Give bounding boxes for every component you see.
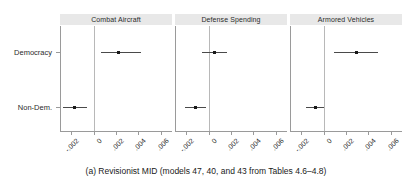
panel-header-2: Defense Spending xyxy=(175,14,287,25)
panel-header-1: Combat Aircraft xyxy=(60,14,172,25)
x-tick-mark xyxy=(71,132,72,135)
x-tick-mark xyxy=(161,132,162,135)
panel-header-label: Combat Aircraft xyxy=(60,14,172,25)
x-tick-mark xyxy=(301,132,302,135)
panel-y-axis-2 xyxy=(175,26,176,131)
zero-reference-line-1 xyxy=(94,26,95,131)
x-tick-mark xyxy=(253,132,254,135)
y-tick-mark xyxy=(56,52,60,53)
zero-reference-line-2 xyxy=(209,26,210,131)
x-tick-mark xyxy=(368,132,369,135)
zero-reference-line-3 xyxy=(324,26,325,131)
point-estimate xyxy=(213,51,216,54)
y-tick-label-non-dem-: Non-Dem. xyxy=(0,103,52,112)
x-tick-mark xyxy=(186,132,187,135)
point-estimate xyxy=(194,106,197,109)
x-tick-mark xyxy=(209,132,210,135)
x-tick-mark xyxy=(138,132,139,135)
coefficient-plot-figure: Combat Aircraft-.0020.002.004.006Defense… xyxy=(0,0,412,187)
panel-y-axis-1 xyxy=(60,26,61,131)
confidence-interval xyxy=(101,52,140,53)
panel-y-axis-3 xyxy=(290,26,291,131)
x-tick-mark xyxy=(276,132,277,135)
y-tick-label-democracy: Democracy xyxy=(0,48,52,57)
x-tick-mark xyxy=(116,132,117,135)
panel-header-label: Defense Spending xyxy=(175,14,287,25)
x-tick-mark xyxy=(391,132,392,135)
point-estimate xyxy=(355,51,358,54)
x-tick-mark xyxy=(94,132,95,135)
figure-caption: (a) Revisionist MID (models 47, 40, and … xyxy=(0,166,412,176)
panel-header-label: Armored Vehicles xyxy=(290,14,402,25)
panel-header-3: Armored Vehicles xyxy=(290,14,402,25)
y-tick-mark xyxy=(56,107,60,108)
x-tick-mark xyxy=(346,132,347,135)
x-tick-mark xyxy=(324,132,325,135)
point-estimate xyxy=(117,51,120,54)
point-estimate xyxy=(73,106,76,109)
x-tick-mark xyxy=(231,132,232,135)
point-estimate xyxy=(314,106,317,109)
